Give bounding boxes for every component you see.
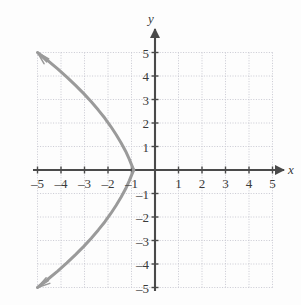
x-tick-label: 4 (246, 177, 253, 190)
y-tick-label: 3 (143, 93, 150, 106)
y-tick-label: –3 (136, 234, 149, 247)
y-tick-label: –5 (136, 281, 149, 294)
graph-figure: –5–4–3–2–112345 54321–1–2–3–4–5 x y (0, 0, 301, 305)
x-tick-label: 1 (175, 177, 182, 190)
x-tick-label: –2 (102, 177, 115, 190)
coordinate-plane-svg (0, 0, 301, 305)
x-tick-label: 2 (199, 177, 206, 190)
axes (33, 29, 284, 291)
x-tick-label: –3 (78, 177, 91, 190)
y-tick-label: 5 (143, 46, 150, 59)
x-tick-label: –4 (55, 177, 68, 190)
y-tick-label: –1 (136, 187, 149, 200)
x-tick-label: –5 (31, 177, 44, 190)
y-tick-label: 2 (143, 117, 150, 130)
y-axis-label: y (148, 12, 154, 25)
y-tick-label: 1 (143, 140, 150, 153)
y-tick-label: –2 (136, 211, 149, 224)
y-tick-label: –4 (136, 258, 149, 271)
y-tick-label: 4 (143, 70, 150, 83)
x-tick-label: 3 (222, 177, 229, 190)
x-axis-label: x (288, 163, 294, 176)
x-tick-label: 5 (269, 177, 276, 190)
